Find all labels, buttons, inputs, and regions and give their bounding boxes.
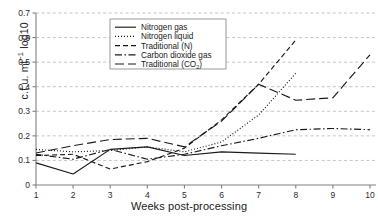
x-tick-label: 2 [71, 190, 76, 200]
y-tick-label: 0 [25, 180, 30, 190]
series-line-nitrogen-liquid [36, 73, 296, 152]
x-tick-label: 3 [108, 190, 113, 200]
legend-label: Carbon dioxide gas [141, 51, 212, 60]
y-tick-label: 0.1 [18, 155, 30, 165]
x-tick-label: 7 [256, 190, 261, 200]
series-line-carbon-dioxide-gas [36, 128, 370, 159]
line-chart-canvas: 00.10.20.30.40.50.60.712345678910Nitroge… [0, 0, 378, 222]
x-axis-title: Weeks post-processing [0, 200, 378, 212]
y-axis-title-main: c.f.u. ml [18, 61, 30, 100]
legend-label: Nitrogen gas [141, 23, 187, 32]
x-tick-label: 4 [145, 190, 150, 200]
chart-figure: 00.10.20.30.40.50.60.712345678910Nitroge… [0, 0, 378, 222]
legend-label: Traditional (N) [141, 42, 193, 51]
y-axis-title-tail: log10 [18, 22, 30, 52]
x-tick-label: 9 [331, 190, 336, 200]
legend: Nitrogen gasNitrogen liquidTraditional (… [110, 19, 226, 70]
y-axis-title: c.f.u. ml−1 log10 [16, 0, 30, 136]
legend-label: Nitrogen liquid [141, 32, 194, 41]
legend-label: Traditional (CO2) [141, 60, 202, 70]
x-tick-label: 10 [365, 190, 375, 200]
x-tick-label: 8 [293, 190, 298, 200]
x-axis-ticks: 12345678910 [34, 185, 375, 200]
series-line-traditional-co [36, 55, 370, 153]
x-tick-label: 5 [182, 190, 187, 200]
legend-label-tail: ) [199, 60, 202, 69]
x-tick-label: 6 [219, 190, 224, 200]
x-tick-label: 1 [34, 190, 39, 200]
y-axis-title-superscript: −1 [16, 52, 25, 61]
